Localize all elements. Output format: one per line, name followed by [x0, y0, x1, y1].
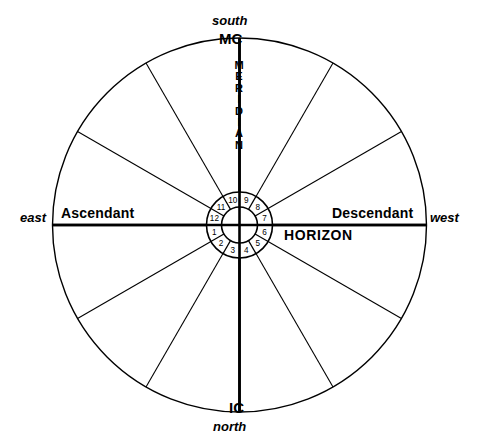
label-east: east [20, 211, 46, 224]
house-number: 12 [210, 214, 220, 223]
label-west: west [430, 211, 459, 224]
house-cusp-line [146, 63, 231, 209]
house-number: 2 [219, 239, 224, 248]
label-ascendant: Ascendant [61, 206, 134, 220]
house-number: 8 [256, 203, 261, 212]
house-cusp-line [146, 241, 231, 387]
house-number: 1 [212, 228, 217, 237]
house-cusp-line [249, 241, 334, 387]
house-number: 4 [244, 246, 249, 255]
house-cusp-line [255, 234, 401, 319]
house-cusp-line [249, 63, 334, 209]
house-cusp-line [78, 132, 224, 217]
house-cusp-line [255, 132, 401, 217]
meridian-letter: N [235, 140, 243, 151]
house-wheel-diagram: 123456789101112 south MC MERIDIAN east A… [0, 0, 479, 448]
house-number: 11 [217, 203, 226, 212]
house-number: 7 [262, 214, 267, 223]
label-mc: MC [219, 31, 242, 46]
house-number: 5 [256, 239, 261, 248]
house-number: 10 [228, 196, 238, 205]
house-number: 3 [230, 246, 235, 255]
label-horizon: HORIZON [284, 228, 353, 242]
label-ic: IC [229, 400, 244, 415]
meridian-letter: I [237, 94, 240, 105]
house-cusp-line [78, 234, 224, 319]
label-descendant: Descendant [332, 206, 413, 220]
label-south: south [212, 14, 247, 27]
label-north: north [213, 420, 246, 433]
house-number: 9 [244, 196, 249, 205]
label-meridian: MERIDIAN [232, 60, 246, 151]
house-number: 6 [262, 228, 267, 237]
